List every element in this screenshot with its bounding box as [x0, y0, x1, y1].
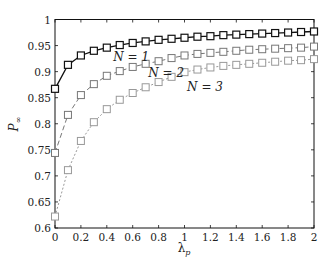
- data-point-marker: [311, 56, 318, 63]
- x-tick-label: 0: [52, 231, 59, 243]
- data-point-marker: [168, 35, 175, 42]
- data-point-marker: [285, 45, 292, 52]
- data-point-marker: [285, 29, 292, 36]
- data-point-marker: [246, 60, 253, 67]
- x-tick-label: 2: [311, 231, 318, 243]
- data-point-marker: [259, 30, 266, 37]
- data-point-marker: [52, 213, 59, 220]
- data-point-marker: [194, 33, 201, 40]
- data-point-marker: [155, 58, 162, 65]
- series-annotation: N = 2: [147, 66, 184, 80]
- data-point-marker: [259, 59, 266, 66]
- data-point-marker: [116, 96, 123, 103]
- data-point-marker: [272, 30, 279, 37]
- data-point-marker: [64, 111, 71, 118]
- y-tick-label: 1: [44, 14, 51, 26]
- data-point-marker: [90, 119, 97, 126]
- data-point-marker: [116, 68, 123, 75]
- data-point-marker: [103, 106, 110, 113]
- data-point-marker: [220, 48, 227, 55]
- data-point-marker: [220, 62, 227, 69]
- x-tick-label: 1.2: [202, 231, 219, 243]
- y-axis-ticks: 0.60.650.70.750.80.850.90.951: [28, 14, 314, 235]
- data-point-marker: [90, 47, 97, 54]
- x-tick-label: 0.8: [150, 231, 167, 243]
- data-point-marker: [90, 81, 97, 88]
- data-point-marker: [129, 89, 136, 96]
- data-point-marker: [142, 38, 149, 45]
- data-point-marker: [103, 72, 110, 79]
- data-point-marker: [52, 149, 59, 156]
- data-point-marker: [181, 34, 188, 41]
- data-point-marker: [194, 50, 201, 57]
- data-point-marker: [77, 52, 84, 59]
- data-point-marker: [116, 42, 123, 49]
- x-tick-label: 1.6: [254, 231, 271, 243]
- data-point-marker: [64, 61, 71, 68]
- data-point-marker: [311, 28, 318, 35]
- data-point-marker: [259, 46, 266, 53]
- data-point-marker: [77, 137, 84, 144]
- x-axis-label-sub: p: [185, 248, 190, 257]
- data-point-marker: [129, 63, 136, 70]
- data-point-marker: [207, 64, 214, 71]
- data-point-marker: [246, 31, 253, 38]
- y-axis-label: P∞: [7, 117, 23, 133]
- data-point-marker: [220, 32, 227, 39]
- y-tick-label: 0.7: [34, 170, 51, 182]
- chart: 00.20.40.60.811.21.41.61.82 0.60.650.70.…: [0, 0, 328, 266]
- data-point-marker: [233, 61, 240, 68]
- data-point-marker: [272, 58, 279, 65]
- data-point-marker: [298, 44, 305, 51]
- x-tick-label: 1.8: [280, 231, 297, 243]
- series-annotation: N = 3: [186, 80, 223, 94]
- data-point-marker: [181, 52, 188, 59]
- x-tick-label: 0.2: [73, 231, 90, 243]
- y-tick-label: 0.8: [34, 118, 51, 130]
- data-point-marker: [168, 55, 175, 62]
- x-tick-label: 0.6: [124, 231, 141, 243]
- data-point-marker: [194, 66, 201, 73]
- x-tick-label: 0.4: [98, 231, 115, 243]
- data-point-marker: [207, 49, 214, 56]
- data-point-marker: [142, 84, 149, 91]
- data-point-marker: [233, 47, 240, 54]
- y-tick-label: 0.65: [28, 196, 51, 208]
- data-point-marker: [52, 85, 59, 92]
- data-point-marker: [207, 33, 214, 40]
- x-tick-label: 1.4: [228, 231, 245, 243]
- x-axis-label: λp: [178, 241, 191, 257]
- y-tick-label: 0.6: [34, 222, 51, 234]
- data-point-marker: [285, 57, 292, 64]
- series-layer: [52, 28, 318, 220]
- data-point-marker: [77, 92, 84, 99]
- data-point-marker: [246, 46, 253, 53]
- y-tick-label: 0.9: [34, 66, 51, 78]
- data-point-marker: [272, 45, 279, 52]
- data-point-marker: [298, 57, 305, 64]
- data-point-marker: [129, 39, 136, 46]
- series-annotation: N = 1: [112, 50, 149, 64]
- data-point-marker: [233, 31, 240, 38]
- data-point-marker: [103, 44, 110, 51]
- data-point-marker: [155, 36, 162, 43]
- y-tick-label: 0.95: [28, 40, 51, 52]
- data-point-marker: [298, 29, 305, 36]
- data-point-marker: [311, 43, 318, 50]
- y-tick-label: 0.75: [28, 144, 51, 156]
- y-tick-label: 0.85: [28, 92, 51, 104]
- y-axis-label-sub: ∞: [14, 117, 23, 124]
- data-point-marker: [64, 167, 71, 174]
